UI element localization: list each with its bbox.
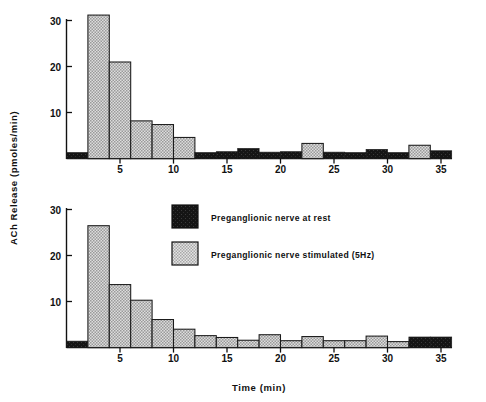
bar-bin xyxy=(152,125,173,159)
y-axis-title: ACh Release (pmoles/min) xyxy=(8,111,19,245)
lower-xtick-label-15: 15 xyxy=(221,353,233,364)
bar-bin xyxy=(174,137,195,158)
lower-bars xyxy=(67,226,452,348)
upper-x-ticks: 5101520253035 xyxy=(117,159,447,175)
upper-y-ticks: 30 20 10 xyxy=(50,16,72,119)
legend: Preganglionic nerve at rest Preganglioni… xyxy=(172,205,375,265)
bar-bin xyxy=(430,151,451,159)
legend-swatch-stimulated xyxy=(172,242,198,265)
lower-xtick-label-10: 10 xyxy=(168,353,180,364)
bar-bin xyxy=(88,226,109,348)
bar-bin xyxy=(259,335,280,348)
lower-ytick-label-20: 20 xyxy=(50,251,62,262)
y-axis-title-text: ACh Release (pmoles/min) xyxy=(8,111,19,245)
x-axis-title-text: Time (min) xyxy=(232,382,286,393)
bar-bin xyxy=(195,153,216,159)
bar-bin xyxy=(323,152,344,158)
upper-xtick-label-5: 5 xyxy=(117,164,123,175)
bar-bin xyxy=(131,300,152,347)
legend-item-stimulated: Preganglionic nerve stimulated (5Hz) xyxy=(172,242,375,265)
upper-ytick-label-30: 30 xyxy=(50,16,62,27)
legend-label-stimulated: Preganglionic nerve stimulated (5Hz) xyxy=(211,250,375,260)
upper-xtick-label-10: 10 xyxy=(168,164,180,175)
bar-bin xyxy=(174,329,195,347)
lower-chart: 30 20 10 5101520253035 Time (min) xyxy=(50,205,452,394)
lower-xtick-label-25: 25 xyxy=(328,353,340,364)
upper-bars xyxy=(67,15,452,159)
bar-bin xyxy=(409,145,430,158)
bar-bin xyxy=(216,152,237,159)
upper-xtick-label-30: 30 xyxy=(382,164,394,175)
upper-xtick-label-15: 15 xyxy=(221,164,233,175)
bar-bin xyxy=(302,337,323,348)
bar-bin xyxy=(281,152,302,159)
lower-y-ticks: 30 20 10 xyxy=(50,205,72,308)
lower-x-ticks: 5101520253035 xyxy=(117,348,447,364)
bar-bin xyxy=(67,341,88,347)
legend-swatch-rest xyxy=(172,205,198,228)
legend-label-rest: Preganglionic nerve at rest xyxy=(211,213,331,223)
lower-xtick-label-30: 30 xyxy=(382,353,394,364)
upper-ytick-label-10: 10 xyxy=(50,108,62,119)
lower-xtick-label-20: 20 xyxy=(275,353,287,364)
bar-bin xyxy=(238,340,259,347)
bar-bin xyxy=(388,153,409,159)
lower-xtick-label-35: 35 xyxy=(435,353,447,364)
bar-bin xyxy=(366,336,387,348)
upper-ytick-label-20: 20 xyxy=(50,62,62,73)
bar-bin xyxy=(67,153,88,159)
bar-bin xyxy=(88,15,109,159)
upper-xtick-label-35: 35 xyxy=(435,164,447,175)
bar-bin xyxy=(409,337,430,348)
bar-bin xyxy=(302,143,323,158)
bar-bin xyxy=(323,341,344,348)
bar-bin xyxy=(345,341,366,348)
bar-bin xyxy=(366,149,387,158)
bar-bin xyxy=(216,337,237,347)
bar-bin xyxy=(281,341,302,348)
upper-chart: 30 20 10 5101520253035 xyxy=(50,15,452,174)
lower-ytick-label-30: 30 xyxy=(50,205,62,216)
legend-item-rest: Preganglionic nerve at rest xyxy=(172,205,331,228)
bar-bin xyxy=(152,320,173,348)
ach-release-figure: ACh Release (pmoles/min) 30 20 10 510152… xyxy=(0,0,486,402)
bar-bin xyxy=(109,285,130,348)
bar-bin xyxy=(131,121,152,159)
lower-xtick-label-5: 5 xyxy=(117,353,123,364)
bar-bin xyxy=(259,152,280,158)
upper-xtick-label-25: 25 xyxy=(328,164,340,175)
bar-bin xyxy=(388,342,409,348)
bar-bin xyxy=(430,337,451,348)
bar-bin xyxy=(345,153,366,159)
upper-xtick-label-20: 20 xyxy=(275,164,287,175)
bar-bin xyxy=(195,336,216,348)
bar-bin xyxy=(109,62,130,159)
lower-ytick-label-10: 10 xyxy=(50,297,62,308)
bar-bin xyxy=(238,148,259,158)
